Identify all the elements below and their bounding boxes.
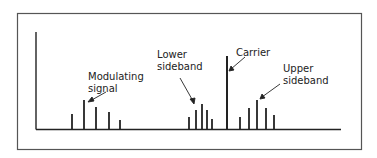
- lower-sideband-label-2: sideband: [157, 61, 203, 72]
- modulating-arrowhead: [88, 97, 94, 102]
- upper-sideband-label-1: Upper: [283, 63, 314, 74]
- lower-sideband-arrow: [180, 78, 193, 101]
- modulating-signal-label-1: Modulating: [88, 71, 144, 82]
- upper-sideband-arrowhead: [260, 94, 265, 99]
- carrier-arrow: [231, 57, 245, 69]
- modulating-signal-label-2: signal: [88, 83, 118, 94]
- carrier-label: Carrier: [236, 47, 271, 58]
- upper-sideband-label-2: sideband: [283, 75, 329, 86]
- upper-sideband-arrow: [262, 84, 280, 97]
- lower-sideband-arrowhead: [190, 98, 195, 104]
- am-spectrum-diagram: Modulating signal Lower sideband Carrier…: [0, 0, 377, 158]
- lower-sideband-label-1: Lower: [157, 49, 188, 60]
